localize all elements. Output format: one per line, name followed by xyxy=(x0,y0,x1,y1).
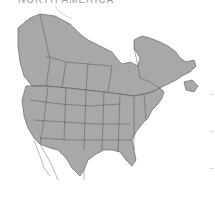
united-states xyxy=(22,86,164,176)
axis-tick xyxy=(210,94,213,95)
axis-tick xyxy=(210,131,213,132)
north-america-map xyxy=(0,0,215,198)
axis-tick xyxy=(210,168,213,169)
newfoundland xyxy=(184,80,198,92)
canada-west xyxy=(18,14,196,96)
